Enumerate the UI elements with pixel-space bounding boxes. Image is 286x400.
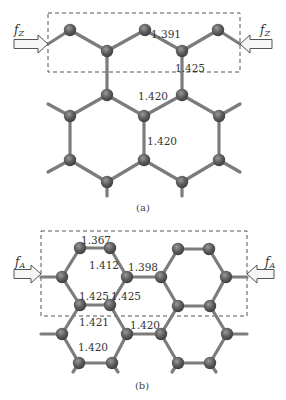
bond-length-label: 1.420 bbox=[138, 90, 168, 102]
bond-length-label: 1.425 bbox=[79, 290, 109, 302]
panel-a-zigzag: 1.3911.4251.4201.420 fZ fZ (a) bbox=[13, 13, 272, 213]
zigzag-edge-region-box bbox=[48, 13, 240, 72]
carbon-atom bbox=[64, 154, 76, 166]
carbon-atom bbox=[172, 243, 184, 255]
force-label-fa-left: fA bbox=[14, 255, 25, 270]
bond bbox=[70, 30, 107, 51]
bond bbox=[107, 160, 144, 182]
force-label-fa-right: fA bbox=[264, 255, 275, 270]
force-label-fz-right: fZ bbox=[259, 23, 270, 38]
bond bbox=[107, 30, 145, 51]
bond bbox=[144, 160, 182, 182]
bond-length-label: 1.367 bbox=[81, 234, 111, 246]
bond bbox=[182, 95, 219, 116]
graphene-strain-diagram: 1.3911.4251.4201.420 fZ fZ (a) 1.3671.41… bbox=[0, 0, 286, 400]
bond bbox=[70, 160, 107, 182]
bond bbox=[182, 30, 218, 51]
carbon-atom bbox=[64, 110, 76, 122]
bond-length-label: 1.421 bbox=[79, 316, 109, 328]
carbon-atom bbox=[213, 154, 225, 166]
carbon-atom bbox=[220, 271, 232, 283]
bond bbox=[70, 95, 107, 116]
carbon-atom bbox=[106, 357, 118, 369]
carbon-atom bbox=[212, 24, 224, 36]
carbon-atom bbox=[64, 24, 76, 36]
carbon-atom bbox=[221, 328, 233, 340]
carbon-atom bbox=[101, 89, 113, 101]
force-arrows bbox=[14, 35, 272, 53]
bond-length-label: 1.420 bbox=[78, 341, 108, 353]
carbon-atom bbox=[204, 357, 216, 369]
bond-length-label: 1.425 bbox=[175, 62, 205, 74]
bond-length-label: 1.391 bbox=[151, 28, 181, 40]
bond bbox=[182, 160, 219, 182]
carbon-atom bbox=[176, 45, 188, 57]
carbon-atom bbox=[101, 45, 113, 57]
carbon-atom bbox=[213, 110, 225, 122]
carbon-atom bbox=[56, 328, 68, 340]
bond-length-label: 1.425 bbox=[111, 290, 141, 302]
carbon-atom bbox=[139, 24, 151, 36]
carbon-atom bbox=[204, 300, 216, 312]
bond-length-label: 1.420 bbox=[147, 135, 177, 147]
carbon-atom bbox=[176, 89, 188, 101]
carbon-atom bbox=[176, 176, 188, 188]
carbon-atom bbox=[73, 357, 85, 369]
bond-length-label: 1.398 bbox=[128, 261, 158, 273]
carbon-atom bbox=[138, 154, 150, 166]
bond-length-label: 1.412 bbox=[89, 259, 119, 271]
panel-b-armchair: 1.3671.4121.3981.4251.4251.4211.4201.420… bbox=[14, 231, 275, 391]
panel-a-caption: (a) bbox=[136, 202, 150, 213]
carbon-atom bbox=[172, 300, 184, 312]
carbon-atom bbox=[138, 110, 150, 122]
carbon-atom bbox=[56, 271, 68, 283]
force-label-fz-left: fZ bbox=[13, 23, 24, 38]
carbon-atom bbox=[101, 176, 113, 188]
armchair-edge-region-box bbox=[41, 231, 247, 316]
bond-length-label: 1.420 bbox=[130, 319, 160, 331]
carbon-atom bbox=[172, 357, 184, 369]
carbon-atom bbox=[203, 243, 215, 255]
panel-b-caption: (b) bbox=[135, 380, 149, 391]
